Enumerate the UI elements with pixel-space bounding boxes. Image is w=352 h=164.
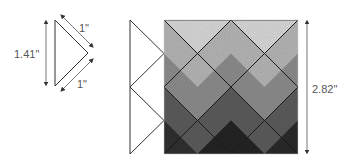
side-triangles (130, 20, 164, 154)
single-triangle-figure: 1.41" 1" 1" (14, 16, 92, 90)
hypotenuse-label: 1.41" (14, 48, 39, 60)
block-dimension: 2.82" (307, 22, 337, 152)
side-triangle-top (130, 20, 164, 87)
diagram-canvas: 1.41" 1" 1" (0, 0, 352, 164)
side-triangle-bottom (130, 87, 164, 154)
lower-leg-label: 1" (77, 78, 87, 90)
quilt-block (164, 20, 298, 154)
upper-leg-label: 1" (79, 22, 89, 34)
block-side-label: 2.82" (312, 83, 337, 95)
